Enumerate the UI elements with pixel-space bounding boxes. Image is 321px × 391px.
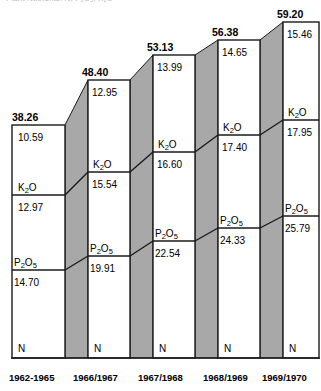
bar-1-k2o-value: 10.59 [18,132,43,143]
x-tick-1: 1966/1967 [73,372,118,383]
bar-5-n-label: N [289,343,296,354]
bar-1967-1968[interactable]: 53.13 13.99 K2O 16.60 P2O5 22.54 N [147,41,195,358]
bar-2-body [88,80,130,358]
bar-1969-1970[interactable]: 59.20 15.46 K2O 17.95 P2O5 25.79 N [277,8,319,358]
bar-3-n-value: 22.54 [155,248,180,259]
bar-3-p2o5-value: 16.60 [157,159,182,170]
connector-3-4 [195,40,218,358]
bar-2-k2o-value: 12.95 [92,87,117,98]
bar-3-total: 53.13 [147,41,173,53]
bar-3-body [153,55,195,358]
bar-5-total: 59.20 [277,8,303,20]
connector-1-2 [65,80,88,358]
fertilizer-consumption-chart: Plant Nutrients: N, P₂O₅, K₂O [0,0,321,391]
bar-3-n-label: N [159,343,166,354]
x-tick-0: 1962-1965 [9,372,55,383]
connector-2-3 [130,55,153,358]
bar-2-total: 48.40 [82,66,108,78]
chart-canvas: 38.26 10.59 K2O 12.97 P2O5 14.70 N 48.40… [0,0,321,391]
x-axis-labels: 1962-1965 1966/1967 1967/1968 1968/1969 … [9,372,307,383]
x-tick-2: 1967/1968 [138,372,183,383]
bar-5-k2o-value: 15.46 [287,29,312,40]
bar-4-n-value: 24.33 [220,235,245,246]
x-tick-3: 1968/1969 [203,372,248,383]
bar-2-n-label: N [94,343,101,354]
x-tick-4: 1969/1970 [262,372,307,383]
bar-1-n-value: 14.70 [14,277,39,288]
bar-4-body [218,40,260,358]
bar-1966-1967[interactable]: 48.40 12.95 K2O 15.54 P2O5 19.91 N [82,66,130,358]
bar-4-n-label: N [224,343,231,354]
bar-4-p2o5-value: 17.40 [222,142,247,153]
bar-2-n-value: 19.91 [90,263,115,274]
bar-1-n-label: N [18,343,25,354]
bar-5-body [283,22,319,358]
bar-1-body [12,125,65,358]
bar-1-total: 38.26 [12,111,38,123]
bar-4-k2o-value: 14.65 [222,47,247,58]
bar-4-total: 56.38 [212,26,238,38]
bar-1962-1965[interactable]: 38.26 10.59 K2O 12.97 P2O5 14.70 N [12,111,65,358]
bar-2-p2o5-value: 15.54 [92,179,117,190]
bar-3-k2o-value: 13.99 [157,62,182,73]
bar-1-p2o5-value: 12.97 [18,202,43,213]
connector-4-5 [260,22,283,358]
bar-1968-1969[interactable]: 56.38 14.65 K2O 17.40 P2O5 24.33 N [212,26,260,358]
bar-5-p2o5-value: 17.95 [287,127,312,138]
bar-5-n-value: 25.79 [285,223,310,234]
